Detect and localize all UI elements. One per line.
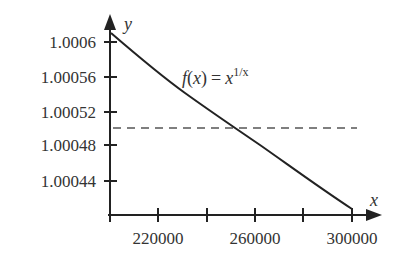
y-tick-label: 1.00056	[41, 68, 96, 87]
x-tick-label: 300000	[327, 229, 378, 248]
y-tick-label: 1.00048	[41, 136, 96, 155]
function-curve	[111, 33, 352, 214]
y-tick-label: 1.0006	[49, 33, 96, 52]
x-tick-label: 220000	[133, 229, 184, 248]
svg-text:f(x)=x1/x: f(x)=x1/x	[182, 65, 249, 89]
y-tick-label: 1.00052	[41, 103, 96, 122]
chart: 1.0006 1.00056 1.00052 1.00048 1.00044 2…	[0, 0, 403, 278]
x-axis-label: x	[369, 190, 378, 210]
y-tick-label: 1.00044	[41, 172, 97, 191]
y-axis-label: y	[122, 14, 132, 34]
x-tick-label: 260000	[230, 229, 281, 248]
x-axis-arrow-icon	[366, 209, 382, 221]
function-annotation: f(x)=x1/x	[182, 65, 249, 89]
y-axis-arrow-icon	[104, 14, 116, 30]
